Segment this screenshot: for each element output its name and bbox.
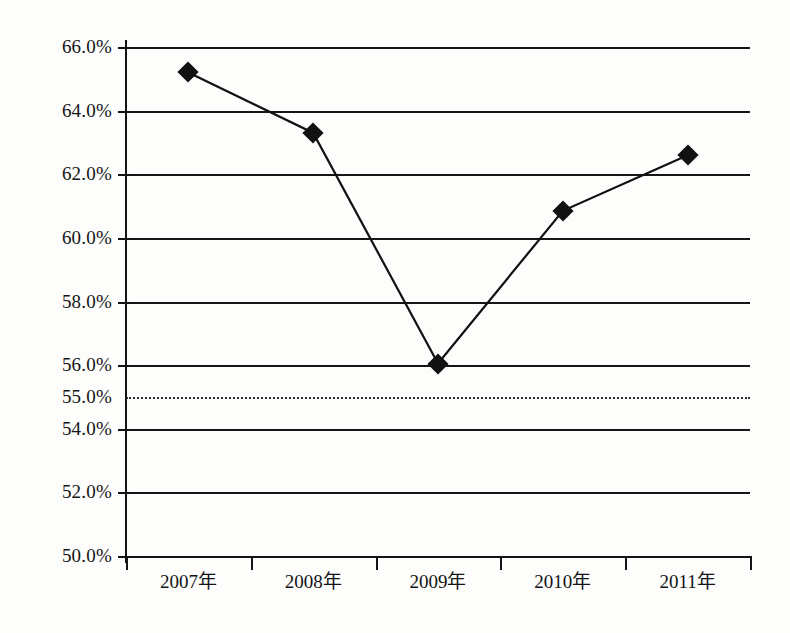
x-axis-tick: [251, 556, 253, 570]
x-axis-tick: [376, 556, 378, 570]
x-axis-tick: [500, 556, 502, 570]
y-axis-tick: [118, 365, 133, 367]
y-axis-tick-label: 56.0%: [2, 355, 112, 374]
y-axis-tick: [118, 111, 133, 113]
gridline: [126, 238, 750, 240]
y-axis-tick-label: 64.0%: [2, 101, 112, 120]
line-chart: 66.0%64.0%62.0%60.0%58.0%56.0%55.0%54.0%…: [0, 0, 790, 633]
x-axis-tick: [750, 556, 752, 570]
x-axis-line: [126, 556, 750, 558]
y-axis-tick-label: 52.0%: [2, 482, 112, 501]
y-axis-tick: [118, 429, 133, 431]
gridline: [126, 47, 750, 49]
y-axis-tick-label: 62.0%: [2, 164, 112, 183]
y-axis-tick: [118, 47, 133, 49]
x-axis-tick-label: 2011年: [625, 570, 750, 594]
x-axis-tick: [126, 556, 128, 570]
x-axis-tick-label: 2007年: [126, 570, 251, 594]
plot-area: [126, 47, 750, 556]
x-axis-tick: [625, 556, 627, 570]
y-axis-tick-label: 60.0%: [2, 228, 112, 247]
y-axis-tick: [118, 302, 133, 304]
gridline: [126, 111, 750, 113]
gridline: [126, 302, 750, 304]
x-axis-tick-label: 2008年: [251, 570, 376, 594]
y-axis-tick-label: 54.0%: [2, 419, 112, 438]
y-axis-tick-label: 58.0%: [2, 292, 112, 311]
y-axis-tick: [118, 556, 133, 558]
x-axis-tick-label: 2010年: [500, 570, 625, 594]
y-axis-tick: [118, 492, 133, 494]
y-axis-labels: 66.0%64.0%62.0%60.0%58.0%56.0%55.0%54.0%…: [0, 0, 112, 633]
x-axis-tick-label: 2009年: [376, 570, 501, 594]
y-axis-tick-label: 50.0%: [2, 546, 112, 565]
y-axis-tick: [118, 174, 133, 176]
gridline: [126, 429, 750, 431]
gridline: [126, 492, 750, 494]
reference-line: [126, 397, 750, 399]
y-axis-tick: [118, 238, 133, 240]
y-axis-tick-label: 66.0%: [2, 37, 112, 56]
y-axis-tick-label: 55.0%: [2, 387, 112, 406]
gridline: [126, 174, 750, 176]
